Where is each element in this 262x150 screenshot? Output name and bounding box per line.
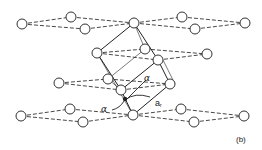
angle-vertex-marker <box>123 97 127 101</box>
rhombohedral-lattice-diagram: α α ar (b) <box>0 0 262 150</box>
layer-bonds <box>21 17 245 122</box>
lattice-parameter-label: ar <box>155 98 162 108</box>
angle-label-upper: α <box>144 73 150 83</box>
unit-cell-edges <box>97 23 175 115</box>
atoms <box>16 12 250 127</box>
angle-label-left: α <box>101 104 107 114</box>
panel-label: (b) <box>236 135 246 144</box>
